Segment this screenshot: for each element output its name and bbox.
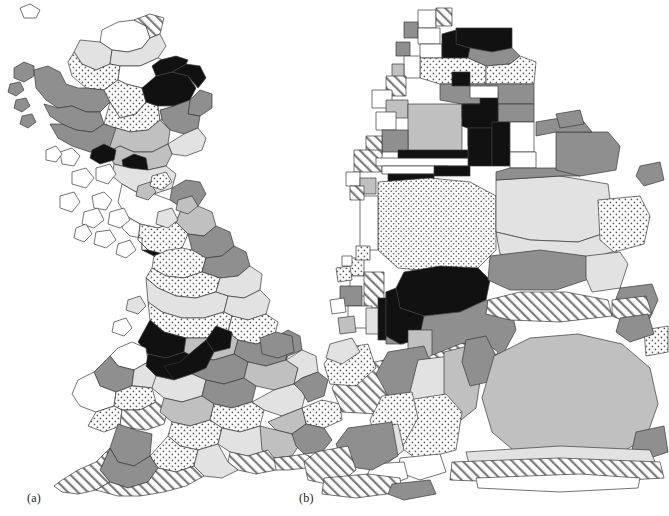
region-b <box>470 86 498 98</box>
region-b <box>376 112 396 130</box>
region-b <box>336 266 352 282</box>
region-b <box>342 256 352 266</box>
region-b <box>360 196 378 250</box>
region-b <box>482 334 658 464</box>
figure-container: (a) (b) <box>0 0 669 516</box>
region-b <box>350 186 364 200</box>
region-b <box>420 44 442 58</box>
region-b <box>346 172 360 186</box>
region-b <box>356 246 370 260</box>
region-b <box>396 42 410 56</box>
region-b <box>436 8 452 26</box>
region-b <box>452 72 470 86</box>
region-b <box>382 130 408 152</box>
region-b <box>418 10 436 28</box>
region-b <box>404 22 418 38</box>
region-b <box>418 28 440 44</box>
panel-a-label: (a) <box>27 491 41 506</box>
region-b <box>598 196 650 252</box>
region-b <box>338 316 356 334</box>
region-b <box>498 104 534 122</box>
region-b <box>510 122 534 152</box>
region-a <box>260 332 294 358</box>
two-panel-map-figure <box>0 0 669 516</box>
region-b <box>468 128 492 166</box>
panel-b-label: (b) <box>299 491 314 506</box>
region-b <box>376 158 468 166</box>
region-b <box>378 178 496 272</box>
region-b <box>496 176 614 242</box>
region-b <box>398 150 468 158</box>
region-b <box>510 152 536 168</box>
region-b <box>492 122 510 166</box>
region-b <box>330 298 346 314</box>
region-b <box>556 132 620 176</box>
region-b <box>434 166 470 176</box>
region-b <box>404 56 420 78</box>
